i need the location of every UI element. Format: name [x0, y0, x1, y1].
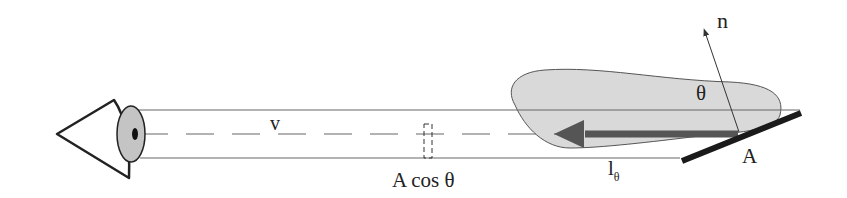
eye-pupil-icon — [132, 128, 138, 140]
view-vector-label: v — [270, 112, 280, 134]
normal-label: n — [717, 8, 728, 33]
radiance-subscript: θ — [614, 170, 620, 184]
radiance-diagram: v A cos θ n θ A lθ — [0, 0, 847, 198]
projected-area-box — [424, 124, 432, 158]
area-label: A — [742, 144, 758, 168]
projected-area-label: A cos θ — [392, 168, 455, 192]
eye-iris-icon — [117, 106, 145, 162]
angle-label: θ — [696, 81, 706, 105]
radiance-label: lθ — [608, 156, 620, 184]
